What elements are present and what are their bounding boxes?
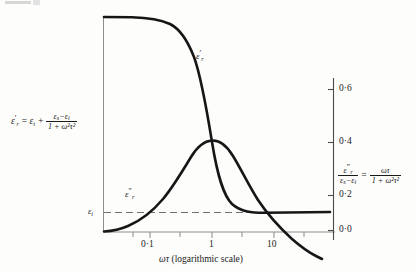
right-formula-lhs-fraction: ε″r εs−εi bbox=[338, 167, 358, 185]
dispersion-curve-eps-r-prime bbox=[104, 17, 330, 213]
x-axis-title: ωτ (logarithmic scale) bbox=[159, 255, 243, 265]
x-axis-ticks bbox=[133, 232, 304, 238]
y-right-tick-label-0: 0·6 bbox=[339, 84, 352, 94]
y-right-tick-label-1: 0·4 bbox=[339, 137, 352, 147]
curve-label-absorption: ε″r bbox=[125, 190, 134, 199]
y-right-tick-label-2: 0·2 bbox=[339, 190, 352, 200]
left-formula-equals: = bbox=[19, 117, 29, 127]
left-formula: ε′r=εi+ εs−εi 1 + ω²τ² bbox=[11, 113, 77, 131]
plot-canvas bbox=[0, 0, 416, 271]
curve-label-dispersion: ε′r bbox=[196, 52, 204, 61]
left-axis-eps-i-label: εi bbox=[88, 207, 93, 216]
x-tick-label-0: 0·1 bbox=[141, 240, 154, 250]
left-formula-numerator: εs−εi bbox=[46, 113, 77, 123]
right-formula-equals: = bbox=[358, 171, 369, 181]
x-tick-label-1: 1 bbox=[209, 240, 214, 250]
left-formula-plus: + bbox=[35, 117, 46, 127]
left-formula-fraction: εs−εi 1 + ω²τ² bbox=[46, 113, 77, 131]
axes-group bbox=[104, 16, 336, 240]
x-tick-label-2: 10 bbox=[267, 240, 277, 250]
left-formula-lhs: ε′r bbox=[11, 117, 19, 127]
right-formula-rhs-denominator: 1 + ω²τ² bbox=[370, 176, 401, 185]
right-formula-lhs-denominator: εs−εi bbox=[338, 176, 358, 185]
right-formula: ε″r εs−εi = ωτ 1 + ω²τ² bbox=[338, 167, 401, 185]
left-formula-denominator: 1 + ω²τ² bbox=[46, 122, 77, 131]
right-formula-rhs-numerator: ωτ bbox=[370, 167, 401, 177]
debye-relaxation-figure: ε′r=εi+ εs−εi 1 + ω²τ² ε″r εs−εi = ωτ 1 … bbox=[0, 0, 416, 271]
right-formula-rhs-fraction: ωτ 1 + ω²τ² bbox=[370, 167, 401, 185]
y-right-tick-label-3: 0·0 bbox=[339, 225, 352, 235]
